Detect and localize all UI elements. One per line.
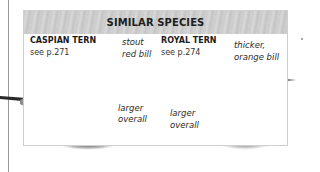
annotation-bill-caspian-line1: stout [122,36,144,48]
annotation-bill-royal-line2: orange bill [234,51,279,63]
species-name-caspian-tern: CASPIAN TERN [30,35,96,47]
page-reference-caspian-tern[interactable]: see p.271 [30,47,69,59]
panel-title: SIMILAR SPECIES [107,17,205,28]
annotation-size-caspian-line2: overall [118,113,147,125]
annotation-size-royal-line1: larger [170,107,195,119]
annotation-size-royal-line2: overall [170,119,199,131]
page-reference-royal-tern[interactable]: see p.274 [161,47,200,59]
panel-header: SIMILAR SPECIES [24,11,287,34]
annotation-bill-royal-line1: thicker, [234,39,265,51]
similar-species-panel: SIMILAR SPECIES [23,10,288,146]
annotation-bill-caspian-line2: red bill [122,48,151,60]
species-name-royal-tern: ROYAL TERN [161,35,217,47]
